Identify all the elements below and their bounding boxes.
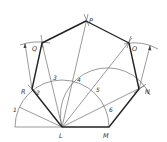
heptagon-construction-diagram: L M N O P Q R 1 2 3 4 5 6 <box>0 0 167 142</box>
division-label-4: 4 <box>77 76 81 83</box>
division-label-1: 1 <box>13 106 17 113</box>
division-label-6: 6 <box>109 106 113 113</box>
construction-line-R <box>25 44 32 89</box>
label-P: P <box>89 17 93 25</box>
division-label-5: 5 <box>96 86 100 93</box>
label-Q: Q <box>32 45 37 53</box>
label-L: L <box>59 132 63 140</box>
division-line-6-to-N <box>62 86 144 127</box>
label-M: M <box>103 132 109 140</box>
division-label-2: 2 <box>36 89 40 96</box>
division-label-3: 3 <box>53 74 57 81</box>
division-line-1 <box>19 107 62 127</box>
heptagon-outline <box>32 21 139 127</box>
construction-line-N <box>139 46 150 89</box>
label-R: R <box>21 88 26 96</box>
label-N: N <box>145 88 150 96</box>
label-O: O <box>132 45 137 53</box>
